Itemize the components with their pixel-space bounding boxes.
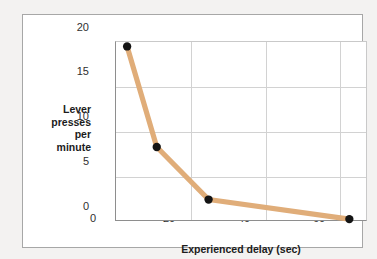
y-tick-label-15: 15 — [67, 66, 89, 77]
data-point-1 — [153, 143, 161, 151]
plot-svg — [116, 42, 366, 220]
data-point-0 — [123, 42, 131, 50]
data-markers — [123, 42, 354, 223]
data-point-3 — [345, 215, 353, 223]
y-tick-label-10: 10 — [67, 111, 89, 122]
y-tick-label-20: 20 — [67, 22, 89, 33]
x-tick-label-0: 0 — [78, 213, 108, 224]
y-axis-title-line-3: per — [37, 128, 91, 141]
data-point-2 — [204, 195, 212, 203]
y-tick-label-5: 5 — [67, 156, 89, 167]
chart-card: Lever presses per minute 20 15 10 5 0 0 … — [22, 14, 363, 248]
data-line-lever-presses — [127, 46, 349, 219]
y-tick-label-0: 0 — [67, 201, 89, 212]
plot-area — [115, 41, 367, 221]
x-axis-title: Experienced delay (sec) — [115, 243, 367, 255]
y-axis-title-line-4: minute — [37, 141, 91, 154]
chart-figure: Lever presses per minute 20 15 10 5 0 0 … — [0, 0, 377, 259]
